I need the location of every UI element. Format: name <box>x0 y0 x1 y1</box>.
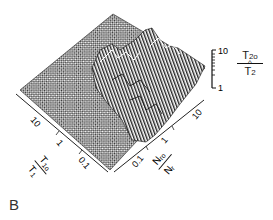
x-tick-1: 1 <box>54 138 65 148</box>
hat-symbol: ^ <box>237 58 263 67</box>
x-tick-10: 10 <box>28 115 42 129</box>
z-label-den-sub: 2 <box>251 68 255 77</box>
x-axis-label: T1o T1 <box>24 152 56 183</box>
y-tick-0.1: 0.1 <box>130 153 146 169</box>
surface-plot: 10 1 0.1 0.1 1 10 10 1 T1o T1 Nro Nr <box>0 0 273 220</box>
z-tick-1: 1 <box>218 83 223 93</box>
svg-text:T1o: T1o <box>37 154 55 172</box>
z-tick-10: 10 <box>218 46 228 56</box>
z-axis-scale <box>212 50 216 88</box>
z-axis-label: T2o ^T2 <box>237 49 263 77</box>
x-tick-0.1: 0.1 <box>76 155 92 171</box>
y-tick-1: 1 <box>159 135 170 145</box>
panel-label: B <box>9 196 19 213</box>
y-axis-label: Nro Nr <box>149 146 182 178</box>
